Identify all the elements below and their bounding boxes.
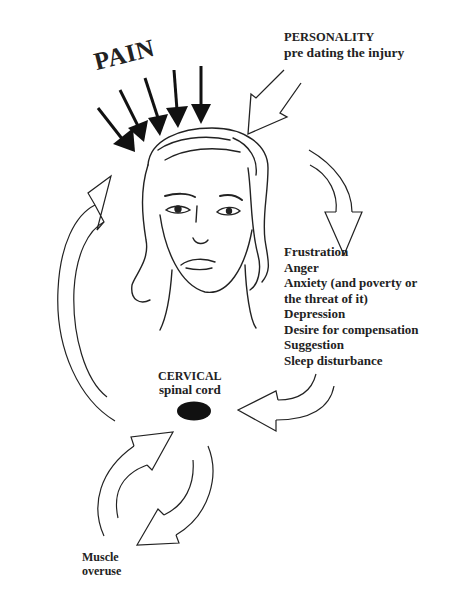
cervical-title: CERVICAL <box>158 369 222 383</box>
cervical-label: CERVICAL spinal cord <box>158 369 222 397</box>
factor-item: Anxiety (and poverty or <box>284 275 419 291</box>
muscle-line1: Muscle <box>82 550 121 564</box>
factors-list: Frustration Anger Anxiety (and poverty o… <box>284 244 419 368</box>
spinal-cord-shape <box>177 402 211 421</box>
cord-to-head-arrow <box>58 176 115 421</box>
personality-subtitle: pre dating the injury <box>284 45 404 60</box>
pain-arrow-4 <box>166 70 188 128</box>
pain-arrows <box>98 66 211 152</box>
personality-title: PERSONALITY <box>284 30 404 45</box>
pain-arrow-1 <box>98 108 135 152</box>
personality-arrow <box>248 70 301 134</box>
cervical-subtitle: spinal cord <box>158 383 222 397</box>
factor-item: Anger <box>284 260 419 276</box>
factor-item: Depression <box>284 306 419 322</box>
factor-item: Desire for compensation <box>284 322 419 338</box>
pain-arrow-5 <box>191 66 211 124</box>
factor-item: Suggestion <box>284 337 419 353</box>
muscle-overuse-label: Muscle overuse <box>82 550 121 578</box>
personality-label: PERSONALITY pre dating the injury <box>284 30 404 60</box>
pain-arrow-3 <box>145 78 168 136</box>
pain-arrow-2 <box>120 90 148 142</box>
muscle-cycle-arrows <box>98 432 213 545</box>
head-to-factors-arrow <box>309 150 362 255</box>
muscle-line2: overuse <box>82 564 121 578</box>
factor-item: Frustration <box>284 244 419 260</box>
factors-to-cord-arrow <box>238 374 334 431</box>
factor-item: Sleep disturbance <box>284 353 419 369</box>
pain-cycle-diagram: PAIN PERSONALITY pre dating the injury F… <box>0 0 465 603</box>
face-illustration <box>132 128 269 330</box>
factor-item: the threat of it) <box>284 291 419 307</box>
